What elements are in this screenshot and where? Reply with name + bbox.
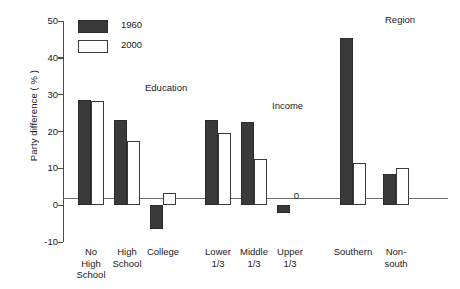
group-header-label: Region <box>385 14 415 25</box>
y-tick-label: 10 <box>18 163 58 173</box>
bar <box>127 141 140 205</box>
bar <box>163 193 176 205</box>
bar-chart: Party difference ( % ) 50403020100-10 19… <box>0 0 460 289</box>
bar <box>91 101 104 205</box>
bar <box>353 163 366 205</box>
group-header-label: Education <box>145 82 187 93</box>
y-tick-label: -10 <box>18 237 58 247</box>
bar <box>383 174 396 205</box>
bar <box>340 38 353 206</box>
bar <box>218 133 231 205</box>
bar <box>78 100 91 205</box>
bar <box>205 120 218 205</box>
plot-area <box>63 21 448 242</box>
bar <box>396 168 409 205</box>
bar <box>277 205 290 212</box>
bar <box>254 159 267 205</box>
bar <box>241 122 254 205</box>
y-axis-title: Party difference ( % ) <box>28 21 39 211</box>
group-header-label: Income <box>272 100 303 111</box>
y-tick-label: 20 <box>18 127 58 137</box>
x-axis-label: Non- south <box>364 246 428 269</box>
bar <box>114 120 127 205</box>
y-tick-label: 50 <box>18 16 58 26</box>
y-tick-label: 40 <box>18 53 58 63</box>
bar <box>150 205 163 229</box>
x-axis-label: Upper 1/3 <box>258 246 322 269</box>
y-tick-label: 30 <box>18 90 58 100</box>
zero-value-annotation: 0 <box>294 190 299 201</box>
y-tick-label: 0 <box>18 200 58 210</box>
